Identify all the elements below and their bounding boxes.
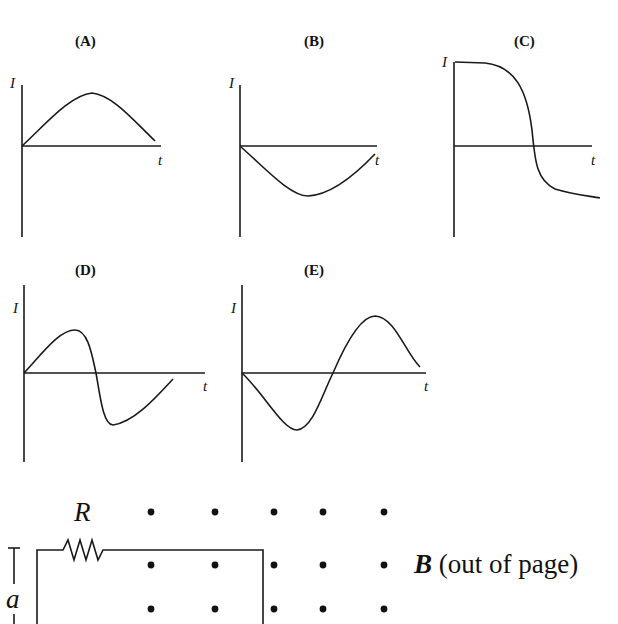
- graph-e-t-label: t: [424, 378, 428, 395]
- panel-b-label: (B): [304, 33, 324, 50]
- panel-a-label: (A): [75, 33, 96, 50]
- dimension-a-label: a: [6, 584, 20, 615]
- graph-a-y-label: I: [10, 75, 15, 92]
- resistor-label: R: [74, 497, 91, 528]
- graph-d-t-label: t: [203, 378, 207, 395]
- panel-d-label: (D): [75, 262, 96, 279]
- graph-d-curve: [24, 330, 173, 425]
- graph-c-t-label: t: [591, 152, 595, 169]
- field-symbol: B: [414, 549, 432, 579]
- graph-a-t-label: t: [158, 152, 162, 169]
- graph-c-y-label: I: [442, 54, 447, 71]
- diagram-canvas: [0, 0, 618, 624]
- graph-c-curve: [455, 62, 600, 198]
- graph-b-y-label: I: [229, 75, 234, 92]
- graph-c: [454, 62, 600, 237]
- graph-a-curve: [22, 93, 155, 146]
- graph-d: [24, 285, 205, 462]
- panel-c-label: (C): [514, 33, 535, 50]
- graph-e-y-label: I: [231, 300, 236, 317]
- graph-a: [22, 85, 161, 237]
- field-direction-text: (out of page): [432, 549, 578, 579]
- panel-e-label: (E): [304, 262, 324, 279]
- graph-e: [242, 285, 426, 462]
- circuit: [8, 540, 263, 624]
- magnetic-field-label: B (out of page): [414, 549, 578, 580]
- magnetic-field-dots: [148, 509, 388, 613]
- graph-b-t-label: t: [375, 152, 379, 169]
- graph-b: [240, 85, 377, 237]
- graph-b-curve: [241, 147, 375, 196]
- graph-d-y-label: I: [13, 300, 18, 317]
